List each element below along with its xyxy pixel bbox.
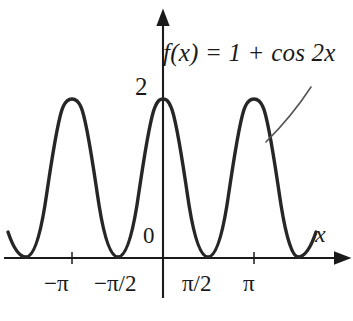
x-tick-label-pi: π	[243, 272, 255, 295]
label-leader-line	[266, 87, 311, 142]
x-axis-label: x	[315, 222, 326, 246]
equation-label: f(x) = 1 + cos 2x	[163, 40, 336, 65]
x-tick-label-neg-pi: −π	[44, 272, 69, 295]
x-tick-label-pi-half: π/2	[182, 272, 212, 295]
y-tick-label-2: 2	[135, 74, 148, 99]
origin-label-0: 0	[143, 224, 155, 247]
figure-container: f(x) = 1 + cos 2x 2 0 x −π −π/2 π/2 π	[0, 0, 353, 321]
x-tick-label-neg-pi-half: −π/2	[94, 272, 136, 295]
